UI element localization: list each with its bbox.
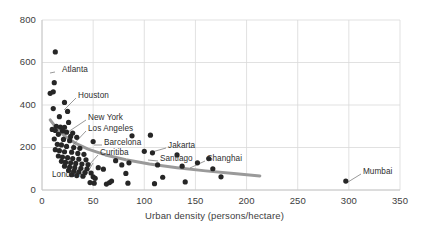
point-label: Curitiba: [100, 148, 129, 157]
data-point: [109, 178, 114, 183]
gridlines: [42, 20, 400, 190]
data-point: [81, 152, 86, 157]
scatter-chart: 0200400600800050100150200250300350Urban …: [0, 0, 429, 234]
data-point: [113, 158, 118, 163]
data-point: [155, 162, 160, 167]
data-point: [93, 176, 98, 181]
data-point: [126, 160, 131, 165]
data-point: [183, 179, 188, 184]
y-tick-label: 800: [6, 14, 36, 25]
data-point: [65, 109, 70, 114]
data-point: [59, 142, 64, 147]
x-tick-label: 250: [278, 195, 318, 206]
data-point: [83, 157, 88, 162]
data-point: [101, 167, 106, 172]
data-point: [210, 166, 215, 171]
data-point: [152, 181, 157, 186]
data-point: [119, 162, 124, 167]
data-point: [343, 178, 348, 183]
x-tick-label: 200: [227, 195, 267, 206]
x-tick-label: 350: [380, 195, 420, 206]
data-point: [62, 164, 67, 169]
x-tick-label: 0: [22, 195, 62, 206]
point-label: New York: [88, 113, 123, 122]
leader-line: [50, 72, 55, 73]
data-point: [74, 135, 79, 140]
data-point: [123, 171, 128, 176]
y-tick-label: 600: [6, 56, 36, 67]
point-label: Houston: [78, 91, 109, 100]
data-point: [67, 138, 72, 143]
leader-line: [348, 174, 361, 182]
x-tick-label: 100: [124, 195, 164, 206]
point-label: Mumbai: [363, 167, 392, 176]
point-label: Santiago: [160, 154, 193, 163]
data-point: [75, 151, 80, 156]
y-tick-label: 400: [6, 99, 36, 110]
data-point: [125, 181, 130, 186]
data-point: [92, 181, 97, 186]
data-point: [150, 150, 155, 155]
data-point: [69, 150, 74, 155]
data-point: [96, 165, 101, 170]
data-point: [57, 114, 62, 119]
x-tick-label: 300: [329, 195, 369, 206]
data-point: [51, 89, 56, 94]
y-tick-label: 0: [6, 184, 36, 195]
data-point: [180, 164, 185, 169]
x-tick-label: 150: [175, 195, 215, 206]
data-point: [66, 120, 71, 125]
y-tick-label: 200: [6, 141, 36, 152]
point-label: Atlanta: [62, 65, 88, 74]
data-point: [91, 139, 96, 144]
data-point: [77, 146, 82, 151]
data-point: [52, 136, 57, 141]
data-point: [62, 100, 67, 105]
data-point: [64, 144, 69, 149]
data-point: [148, 133, 153, 138]
data-point: [51, 106, 56, 111]
data-point: [65, 155, 70, 160]
leader-line: [148, 160, 158, 161]
point-label: Shanghai: [207, 154, 242, 163]
point-label: Los Angeles: [88, 124, 133, 133]
data-point: [61, 137, 66, 142]
data-point: [76, 157, 81, 162]
x-axis-title: Urban density (persons/hectare): [0, 210, 429, 221]
data-point: [218, 174, 223, 179]
data-point: [195, 160, 200, 165]
data-point: [53, 49, 58, 54]
data-point: [56, 132, 61, 137]
point-label: Jakarta: [168, 141, 195, 150]
data-point: [160, 175, 165, 180]
x-tick-label: 50: [73, 195, 113, 206]
point-label: London: [52, 170, 80, 179]
data-point: [57, 148, 62, 153]
data-point: [142, 149, 147, 154]
data-point: [52, 80, 57, 85]
point-label: Barcelona: [104, 138, 141, 147]
data-point: [80, 174, 85, 179]
data-point: [64, 130, 69, 135]
data-point: [62, 149, 67, 154]
data-point: [71, 145, 76, 150]
